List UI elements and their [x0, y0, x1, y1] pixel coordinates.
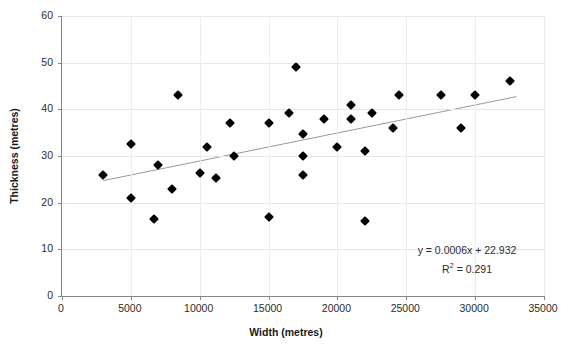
y-tick-label: 60: [41, 10, 53, 21]
regression-annotation: y = 0.0006x + 22.932 R2 = 0.291: [392, 243, 542, 277]
y-axis-title: Thickness (metres): [8, 86, 20, 226]
y-tick: [58, 156, 62, 157]
gridline-vertical: [544, 16, 545, 296]
r-squared-line: R2 = 0.291: [392, 258, 542, 277]
y-tick: [58, 249, 62, 250]
y-tick: [58, 109, 62, 110]
y-tick: [58, 16, 62, 17]
x-axis-title: Width (metres): [0, 326, 572, 338]
y-tick-label: 30: [41, 150, 53, 161]
gridline-horizontal: [62, 109, 544, 110]
scatter-chart: 0102030405060 05000100001500020000250003…: [0, 0, 572, 354]
x-tick: [62, 296, 63, 300]
x-tick-label: 35000: [503, 303, 572, 314]
gridline-horizontal: [62, 203, 544, 204]
y-tick-label: 50: [41, 57, 53, 68]
x-tick: [200, 296, 201, 300]
gridline-vertical: [269, 16, 270, 296]
y-tick: [58, 63, 62, 64]
x-tick: [544, 296, 545, 300]
x-tick: [269, 296, 270, 300]
x-tick: [475, 296, 476, 300]
r-squared-prefix: R: [442, 263, 450, 275]
y-tick-label: 20: [41, 197, 53, 208]
gridline-horizontal: [62, 63, 544, 64]
regression-equation: y = 0.0006x + 22.932: [392, 243, 542, 258]
r-squared-value: = 0.291: [454, 263, 492, 275]
gridline-vertical: [337, 16, 338, 296]
gridline-vertical: [200, 16, 201, 296]
y-tick: [58, 203, 62, 204]
x-tick: [131, 296, 132, 300]
y-tick-label: 0: [47, 290, 53, 301]
y-tick-label: 40: [41, 103, 53, 114]
gridline-horizontal: [62, 16, 544, 17]
x-tick: [337, 296, 338, 300]
x-tick-labels: 05000100001500020000250003000035000: [0, 303, 572, 319]
x-tick: [406, 296, 407, 300]
y-tick-label: 10: [41, 243, 53, 254]
gridline-vertical: [131, 16, 132, 296]
